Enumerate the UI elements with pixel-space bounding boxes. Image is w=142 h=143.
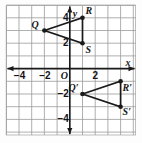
vertex-dot [80,41,85,46]
x-tick-label: −2 [39,71,50,81]
vertex-label: Q′ [69,83,79,93]
x-axis-label: x [126,58,131,68]
vertex-label: S [86,45,92,55]
x-tick-label: 2 [93,71,99,81]
vertex-label: R′ [123,83,132,93]
y-tick-label: −2 [58,89,69,99]
y-axis-label: y [73,9,77,19]
coordinate-plane-figure: QRSQ′R′S′xyO−4−2242−2−4 [0,0,142,143]
x-tick-label: −4 [14,71,25,81]
y-tick-label: 2 [63,38,69,48]
grid-lines [6,5,135,135]
vertex-dot [42,28,47,33]
y-tick-label: 4 [63,13,69,23]
vertex-dot [80,92,85,97]
vertex-label: Q [31,20,38,30]
origin-label: O [61,71,68,81]
vertex-label: R [86,6,93,16]
vertex-dot [80,15,85,20]
y-tick-label: −4 [58,114,69,124]
vertex-label: S′ [123,107,131,117]
